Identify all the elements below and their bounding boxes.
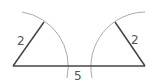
right-segment: [115, 22, 145, 66]
left-side-label: 2: [17, 34, 25, 48]
base-label: 5: [74, 69, 82, 82]
right-side-label: 2: [131, 33, 139, 47]
left-arc: [22, 12, 68, 78]
geometry-diagram: 2 2 5: [0, 0, 149, 82]
